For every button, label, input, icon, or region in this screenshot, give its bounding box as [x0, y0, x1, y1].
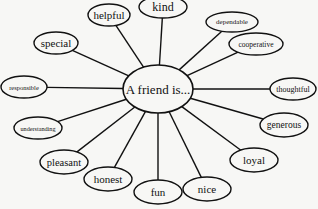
connector-generous [190, 98, 263, 119]
connector-loyal [182, 107, 241, 150]
friend-concept-map: kindhelpfuldependablespecialcooperativer… [0, 0, 318, 209]
node-helpful: helpful [88, 4, 130, 26]
node-label: cooperative [239, 40, 275, 49]
connector-understanding [58, 99, 127, 121]
node-label: kind [152, 0, 173, 14]
node-label: nice [198, 183, 216, 195]
node-label: special [41, 37, 72, 49]
connector-dependable [179, 31, 222, 70]
node-label: dependable [216, 18, 248, 26]
node-label: loyal [243, 154, 265, 166]
node-responsible: responsible [1, 76, 47, 98]
node-label: understanding [20, 125, 55, 132]
node-label: helpful [93, 9, 124, 21]
node-honest: honest [84, 167, 132, 191]
node-thoughtful: thoughtful [270, 78, 316, 100]
connector-special [72, 50, 128, 75]
center-label: A friend is... [126, 82, 191, 97]
node-special: special [34, 32, 78, 54]
node-fun: fun [134, 180, 182, 204]
node-nice: nice [183, 177, 231, 201]
connector-nice [169, 112, 201, 178]
node-generous: generous [260, 113, 308, 137]
node-dependable: dependable [206, 12, 258, 32]
node-loyal: loyal [230, 148, 278, 172]
concept-map-svg: kindhelpfuldependablespecialcooperativer… [0, 0, 318, 209]
node-cooperative: cooperative [229, 33, 283, 55]
connector-kind [159, 18, 162, 65]
node-label: thoughtful [276, 85, 310, 94]
connector-helpful [116, 25, 144, 67]
node-kind: kind [139, 0, 187, 18]
node-pleasant: pleasant [40, 150, 88, 174]
node-label: honest [94, 173, 123, 185]
center-node: A friend is... [123, 65, 193, 113]
node-label: responsible [9, 84, 39, 91]
node-label: fun [151, 186, 166, 198]
node-label: pleasant [47, 157, 81, 168]
node-label: generous [267, 120, 302, 130]
node-understanding: understanding [14, 117, 62, 139]
connector-responsible [47, 87, 123, 88]
